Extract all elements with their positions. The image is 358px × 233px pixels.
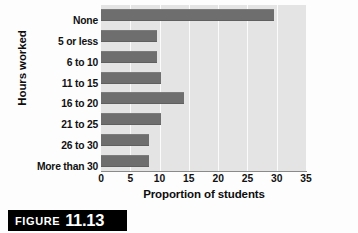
figure-11-13: Hours worked None5 or less6 to 1011 to 1…	[0, 0, 358, 233]
x-axis-tick-label: 25	[242, 173, 253, 184]
x-axis-tick-label: 20	[212, 173, 223, 184]
x-axis-tick-label: 30	[271, 173, 282, 184]
y-axis-tick-label: 21 to 25	[22, 119, 98, 130]
gridline	[189, 5, 190, 171]
bar	[101, 134, 149, 146]
y-axis-tick-label: None	[22, 15, 98, 26]
figure-caption-number: 11.13	[65, 211, 104, 230]
y-axis-tick-label: More than 30	[22, 161, 98, 172]
x-axis-tick-label: 0	[98, 173, 104, 184]
y-axis-tick-label: 16 to 20	[22, 98, 98, 109]
x-axis-tick-labels: 05101520253035	[101, 173, 307, 189]
x-axis-tick-label: 5	[127, 173, 133, 184]
plot-area	[101, 5, 306, 171]
y-axis-tick-label: 5 or less	[22, 36, 98, 47]
figure-caption-word: FIGURE	[15, 215, 60, 227]
bar	[101, 72, 161, 84]
y-axis-tick-labels: None5 or less6 to 1011 to 1516 to 2021 t…	[22, 7, 98, 171]
bar	[101, 30, 157, 42]
x-axis-title: Proportion of students	[101, 188, 307, 200]
y-axis-tick-label: 11 to 15	[22, 78, 98, 89]
gridline	[218, 5, 219, 171]
bar	[101, 51, 157, 63]
gridline	[277, 5, 278, 171]
y-axis-tick-label: 6 to 10	[22, 57, 98, 68]
x-axis-tick-label: 15	[183, 173, 194, 184]
gridline	[247, 5, 248, 171]
gridline	[160, 5, 161, 171]
figure-caption: FIGURE 11.13	[8, 210, 127, 231]
bar	[101, 155, 149, 167]
bar	[101, 113, 161, 125]
bar	[101, 9, 274, 21]
y-axis-tick-label: 26 to 30	[22, 140, 98, 151]
x-axis-tick-label: 10	[154, 173, 165, 184]
bar	[101, 92, 184, 104]
x-axis-tick-label: 35	[300, 173, 311, 184]
x-axis-line	[101, 171, 307, 172]
